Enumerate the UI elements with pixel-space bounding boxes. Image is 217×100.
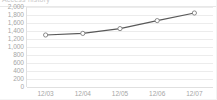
y-tick-label: 1,200 (8, 36, 24, 43)
y-axis-tick-labels: 2,0001,8001,6001,4001,2001,0008006004002… (0, 7, 26, 87)
x-tick-label: 12/05 (112, 89, 128, 99)
y-tick-label: 800 (13, 52, 24, 59)
data-point-marker[interactable] (192, 11, 196, 15)
widget-right-border (216, 0, 217, 100)
x-tick-label: 12/03 (37, 89, 53, 99)
y-tick-label: 0 (20, 84, 24, 91)
plot-area (27, 7, 213, 87)
plot-frame: 2,0001,8001,6001,4001,2001,0008006004002… (0, 7, 217, 100)
widget-bottom-border (0, 99, 217, 100)
y-tick-label: 400 (13, 68, 24, 75)
y-tick-label: 1,600 (8, 20, 24, 27)
data-point-marker[interactable] (44, 33, 48, 37)
y-axis-line (26, 7, 27, 87)
y-tick-label: 1,400 (8, 28, 24, 35)
series-markers (44, 11, 197, 37)
data-point-marker[interactable] (155, 19, 159, 23)
x-tick-label: 12/04 (75, 89, 91, 99)
data-point-marker[interactable] (118, 27, 122, 31)
series-polyline (46, 13, 195, 35)
data-point-marker[interactable] (81, 31, 85, 35)
y-tick-label: 1,000 (8, 44, 24, 51)
x-tick-label: 12/06 (149, 89, 165, 99)
x-tick-label: 12/07 (186, 89, 202, 99)
y-tick-label: 200 (13, 76, 24, 83)
y-tick-label: 600 (13, 60, 24, 67)
y-tick-label: 1,800 (8, 12, 24, 19)
series-line-visits (27, 7, 213, 87)
y-tick-label: 2,000 (8, 4, 24, 11)
line-chart-widget: Access history 2,0001,8001,6001,4001,200… (0, 0, 217, 100)
gridline (27, 87, 213, 88)
